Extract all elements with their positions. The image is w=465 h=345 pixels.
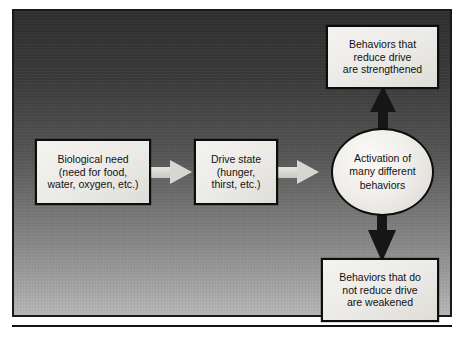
node-biological-need-label: Biological need (need for food, water, o… — [44, 153, 141, 191]
node-behaviors-weakened-line-3: are weakened — [339, 296, 421, 309]
node-drive-state-line-1: Drive state — [211, 153, 261, 166]
node-behaviors-weakened-label: Behaviors that do not reduce drive are w… — [336, 271, 424, 309]
node-activation-label: Activation of many different behaviors — [349, 152, 415, 191]
node-behaviors-strengthened-line-3: are strengthened — [343, 63, 422, 76]
arrow-drive-to-activation-shaft — [277, 167, 299, 178]
arrow-need-to-drive-shaft — [150, 167, 172, 178]
node-behaviors-strengthened-line-2: reduce drive — [343, 51, 422, 64]
node-behaviors-strengthened: Behaviors that reduce drive are strength… — [326, 25, 439, 89]
node-activation-of-behaviors: Activation of many different behaviors — [331, 128, 434, 216]
node-behaviors-weakened: Behaviors that do not reduce drive are w… — [321, 258, 439, 322]
node-activation-line-2: many different — [349, 165, 415, 178]
node-behaviors-strengthened-label: Behaviors that reduce drive are strength… — [340, 38, 425, 76]
node-biological-need-line-3: water, oxygen, etc.) — [47, 178, 138, 191]
node-activation-line-1: Activation of — [349, 152, 415, 165]
node-biological-need-line-1: Biological need — [47, 153, 138, 166]
diagram-page: Biological need (need for food, water, o… — [0, 0, 465, 345]
arrow-drive-to-activation-icon — [277, 160, 322, 185]
arrow-need-to-drive-head — [170, 160, 192, 184]
node-biological-need: Biological need (need for food, water, o… — [35, 139, 151, 205]
node-drive-state-line-3: thirst, etc.) — [211, 178, 261, 191]
node-drive-state-label: Drive state (hunger, thirst, etc.) — [208, 153, 264, 191]
node-biological-need-line-2: (need for food, — [47, 166, 138, 179]
arrow-need-to-drive-icon — [150, 160, 195, 185]
bottom-rule-divider — [12, 325, 452, 327]
node-activation-line-3: behaviors — [349, 179, 415, 192]
node-behaviors-strengthened-line-1: Behaviors that — [343, 38, 422, 51]
arrow-down-to-weakened-icon — [367, 208, 397, 262]
node-drive-state: Drive state (hunger, thirst, etc.) — [194, 139, 278, 205]
arrow-drive-to-activation-head — [297, 160, 319, 184]
node-drive-state-line-2: (hunger, — [211, 166, 261, 179]
node-behaviors-weakened-line-2: not reduce drive — [339, 284, 421, 297]
node-behaviors-weakened-line-1: Behaviors that do — [339, 271, 421, 284]
